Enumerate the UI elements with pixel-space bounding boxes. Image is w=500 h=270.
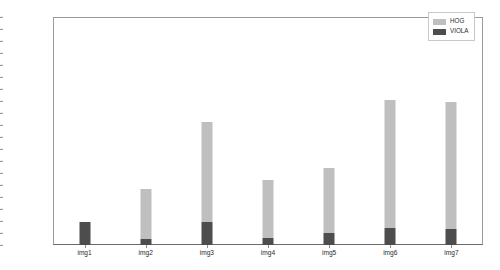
y-axis-tick-mark xyxy=(0,76,3,77)
x-axis-tick-mark xyxy=(451,245,452,248)
x-axis-tick-mark xyxy=(268,245,269,248)
x-axis-tick-label: img3 xyxy=(200,250,214,257)
bar-group[interactable] xyxy=(324,168,335,245)
y-axis-tick-mark xyxy=(0,148,3,149)
y-axis-tick-mark xyxy=(0,160,3,161)
bar-segment-hog[interactable] xyxy=(324,168,335,233)
y-axis-tick-mark xyxy=(0,196,3,197)
bar-segment-hog[interactable] xyxy=(446,102,457,229)
x-axis-tick-label: img5 xyxy=(322,250,336,257)
y-axis-tick-mark xyxy=(0,244,3,245)
y-axis: 0173346520693866104012131386155917321906… xyxy=(0,0,53,270)
y-axis-tick-mark xyxy=(0,100,3,101)
legend-swatch-viola xyxy=(433,29,446,35)
legend-label: VIOLA xyxy=(450,28,469,34)
x-axis-tick-mark xyxy=(146,245,147,248)
y-axis-tick-mark xyxy=(0,221,3,222)
y-axis-tick-mark xyxy=(0,112,3,113)
y-axis-tick-mark xyxy=(0,185,3,186)
y-axis-tick-mark xyxy=(0,172,3,173)
bar-segment-hog[interactable] xyxy=(140,189,151,240)
bar-segment-viola[interactable] xyxy=(263,238,274,245)
bar-segment-viola[interactable] xyxy=(385,228,396,245)
legend-label: HOG xyxy=(450,18,464,24)
bar-segment-viola[interactable] xyxy=(201,222,212,245)
legend-swatch-hog xyxy=(433,19,446,25)
bar-segment-viola[interactable] xyxy=(446,229,457,245)
y-axis-tick-mark xyxy=(0,29,3,30)
y-axis-tick-mark xyxy=(0,208,3,209)
bar-group[interactable] xyxy=(79,222,90,245)
legend-item-viola[interactable]: VIOLA xyxy=(433,27,469,36)
x-axis-tick-mark xyxy=(390,245,391,248)
x-axis-tick-label: img1 xyxy=(77,250,91,257)
bar-group[interactable] xyxy=(201,122,212,245)
y-axis-tick-mark xyxy=(0,233,3,234)
bar-segment-hog[interactable] xyxy=(263,180,274,238)
y-axis-tick-mark xyxy=(0,16,3,17)
bar-segment-hog[interactable] xyxy=(201,122,212,222)
y-axis-tick-mark xyxy=(0,125,3,126)
legend-item-hog[interactable]: HOG xyxy=(433,17,469,26)
x-axis-tick-label: img7 xyxy=(444,250,458,257)
y-axis-tick-mark xyxy=(0,52,3,53)
x-axis-tick-mark xyxy=(85,245,86,248)
bar-group[interactable] xyxy=(140,189,151,245)
chart-legend: HOGVIOLA xyxy=(428,12,475,41)
bar-segment-viola[interactable] xyxy=(79,222,90,245)
y-axis-tick-mark xyxy=(0,137,3,138)
x-axis-tick-label: img6 xyxy=(383,250,397,257)
y-axis-tick-mark xyxy=(0,41,3,42)
x-axis-tick-label: img4 xyxy=(261,250,275,257)
bar-group[interactable] xyxy=(385,100,396,245)
bar-group[interactable] xyxy=(446,102,457,245)
x-axis-tick-label: img2 xyxy=(139,250,153,257)
plot-area xyxy=(54,18,482,245)
y-axis-tick-mark xyxy=(0,89,3,90)
bar-segment-hog[interactable] xyxy=(385,100,396,227)
x-axis-tick-mark xyxy=(207,245,208,248)
x-axis-tick-mark xyxy=(329,245,330,248)
bar-group[interactable] xyxy=(263,180,274,245)
bar-segment-viola[interactable] xyxy=(324,233,335,245)
y-axis-tick-mark xyxy=(0,64,3,65)
bar-chart: 0173346520693866104012131386155917321906… xyxy=(0,0,500,270)
